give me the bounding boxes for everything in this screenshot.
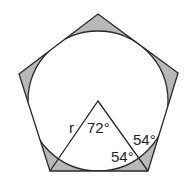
apex-angle-label: 72° [87,119,110,136]
radius-label: r [69,119,74,136]
outer-base-angle-label: 54° [133,131,156,148]
pentagon-circle-diagram: r 72° 54° 54° [0,0,187,181]
inner-base-angle-label: 54° [111,148,134,165]
